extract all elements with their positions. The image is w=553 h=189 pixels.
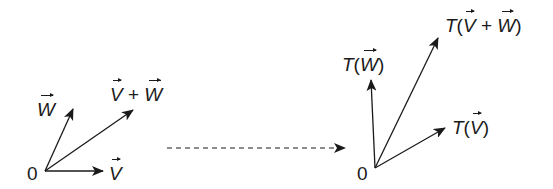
function-t: T: [342, 54, 354, 75]
symbol-w: W: [37, 100, 55, 119]
close-paren: ): [378, 54, 384, 75]
function-t: T: [445, 15, 457, 36]
function-t: T: [452, 117, 464, 138]
symbol-v: V: [470, 118, 483, 137]
vector-tv-arrow: [375, 128, 445, 168]
symbol-v: V: [109, 164, 122, 183]
symbol-w: W: [360, 55, 378, 74]
vector-tw-label: T(W): [342, 55, 384, 74]
close-paren: ): [483, 117, 489, 138]
symbol-w: W: [497, 16, 515, 35]
right-origin-label: 0: [357, 164, 368, 183]
symbol-w: W: [144, 85, 162, 104]
left-origin-label: 0: [27, 164, 38, 183]
symbol-v: V: [463, 16, 476, 35]
linear-transformation-diagram: 0 V W V + W 0 T(W) T(V + W) T(V): [0, 0, 553, 189]
vector-v-plus-w-label: V + W: [110, 85, 162, 104]
vector-v-label: V: [109, 164, 122, 183]
close-paren: ): [515, 15, 521, 36]
vector-w-label: W: [37, 100, 55, 119]
vector-tw-arrow: [371, 80, 375, 168]
plus-operator: +: [481, 15, 492, 36]
symbol-v: V: [110, 85, 123, 104]
vector-tv-label: T(V): [452, 118, 489, 137]
vector-tv-plus-w-arrow: [375, 38, 438, 168]
plus-operator: +: [128, 84, 139, 105]
vector-tv-plus-w-label: T(V + W): [445, 16, 522, 35]
